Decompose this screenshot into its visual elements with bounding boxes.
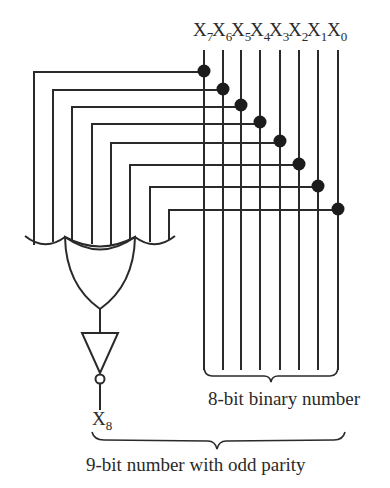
input-label-x1: X1 [307,19,327,44]
output-label-x8: X8 [92,408,112,433]
input-label-x2: X2 [288,19,308,44]
junction-dots [198,65,345,216]
binary-number-label: 8-bit binary number [208,388,361,409]
input-labels: X7 X6 X5 X4 X3 X2 X1 X0 [193,19,347,44]
input-label-x5: X5 [231,19,251,44]
input-label-x7: X7 [193,19,214,44]
parity-number-label: 9-bit number with odd parity [86,454,306,475]
input-label-x6: X6 [212,19,233,44]
input-label-x0: X0 [327,19,347,44]
xor-gate [25,236,175,309]
input-label-x3: X3 [269,19,289,44]
parity-number-brace [92,432,345,449]
gate-input-wires [34,72,338,245]
input-label-x4: X4 [250,19,271,44]
not-gate [82,333,118,410]
inverter-bubble [96,375,105,384]
parity-generator-diagram: X7 X6 X5 X4 X3 X2 X1 X0 [0,0,390,488]
